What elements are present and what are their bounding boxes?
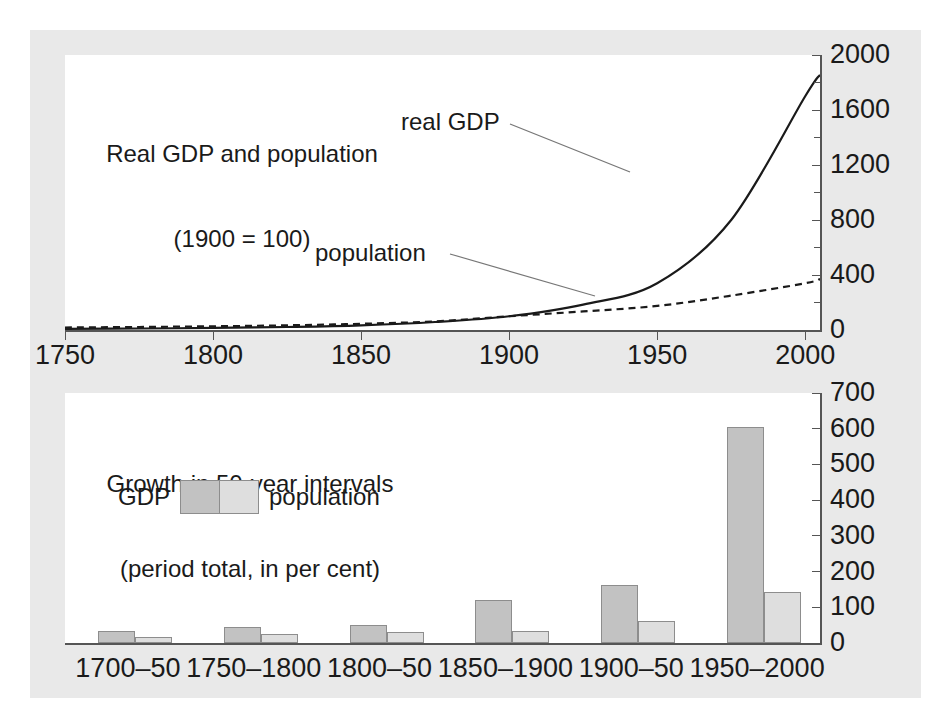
- bottom-chart-y-tick-label: 100: [830, 593, 875, 620]
- bottom-chart-legend: GDP population: [118, 480, 380, 514]
- bottom-chart-y-tick: [812, 428, 821, 429]
- bar-gdp: [475, 600, 512, 643]
- figure-root: 0400800120016002000 17501800185019001950…: [0, 0, 951, 725]
- bottom-chart-y-tick: [812, 535, 821, 536]
- top-chart-x-tick: [361, 331, 362, 340]
- bottom-chart-y-tick-label: 0: [830, 629, 845, 656]
- bottom-chart-y-tick: [812, 393, 821, 394]
- top-chart-y-tick-label: 0: [830, 316, 845, 343]
- top-chart-x-axis: [65, 330, 822, 332]
- legend-swatches: [180, 480, 259, 514]
- top-chart-y-tick-label: 400: [830, 261, 875, 288]
- bottom-chart-y-tick: [812, 464, 821, 465]
- top-chart-x-tick: [65, 331, 66, 340]
- bottom-chart-y-tick-label: 400: [830, 486, 875, 513]
- top-chart-y-tick-major: [812, 110, 821, 111]
- top-chart-y-tick-label: 1600: [830, 96, 890, 123]
- top-chart-y-axis: [820, 55, 822, 331]
- top-chart-y-tick-major: [812, 220, 821, 221]
- legend-label-population: population: [269, 485, 380, 509]
- top-chart-panel: 0400800120016002000 17501800185019001950…: [30, 30, 921, 360]
- bottom-chart-y-tick: [812, 607, 821, 608]
- top-chart-y-tick-major: [812, 165, 821, 166]
- bar-gdp: [601, 585, 638, 643]
- bar-gdp: [727, 427, 764, 643]
- top-chart-x-tick: [657, 331, 658, 340]
- bar-population: [764, 592, 801, 643]
- top-chart-y-tick-major: [812, 275, 821, 276]
- real-gdp-annotation: real GDP: [401, 110, 500, 134]
- bottom-chart-y-tick: [812, 571, 821, 572]
- legend-swatch-gdp-icon: [181, 481, 220, 513]
- top-chart-title-line1: Real GDP and population: [92, 140, 392, 168]
- top-chart-x-tick: [509, 331, 510, 340]
- top-chart-y-tick-label: 800: [830, 206, 875, 233]
- bottom-chart-y-tick-label: 600: [830, 415, 875, 442]
- legend-swatch-population-icon: [220, 481, 258, 513]
- top-chart-x-tick: [213, 331, 214, 340]
- bottom-chart-y-tick-label: 500: [830, 450, 875, 477]
- bar-population: [638, 621, 675, 644]
- top-chart-title: Real GDP and population (1900 = 100): [92, 83, 392, 310]
- top-chart-y-tick-major: [812, 330, 821, 331]
- legend-label-gdp: GDP: [118, 485, 170, 509]
- bottom-chart-x-label: 1950–2000: [667, 655, 847, 682]
- bottom-chart-y-tick-label: 200: [830, 558, 875, 585]
- top-chart-y-tick-label: 2000: [830, 41, 890, 68]
- top-chart-y-tick-minor: [814, 192, 821, 193]
- top-chart-x-tick: [805, 331, 806, 340]
- bottom-chart-y-tick-label: 300: [830, 522, 875, 549]
- bar-population: [512, 631, 549, 643]
- bottom-chart-y-tick: [812, 500, 821, 501]
- top-chart-y-tick-major: [812, 55, 821, 56]
- bottom-chart-title: Growth in 50-year intervals (period tota…: [85, 413, 415, 640]
- bottom-chart-y-tick-label: 700: [830, 379, 875, 406]
- top-chart-y-tick-minor: [814, 82, 821, 83]
- population-leader-line: [450, 254, 595, 296]
- top-chart-y-tick-minor: [814, 247, 821, 248]
- top-chart-y-tick-label: 1200: [830, 151, 890, 178]
- top-chart-y-tick-minor: [814, 137, 821, 138]
- population-annotation: population: [315, 241, 426, 265]
- bottom-chart-title-line2: (period total, in per cent): [85, 555, 415, 583]
- bottom-chart-y-tick: [812, 643, 821, 644]
- bottom-chart-panel: 0100200300400500600700 1700–501750–18001…: [30, 365, 921, 698]
- real-gdp-leader-line: [510, 124, 630, 172]
- top-chart-y-tick-minor: [814, 302, 821, 303]
